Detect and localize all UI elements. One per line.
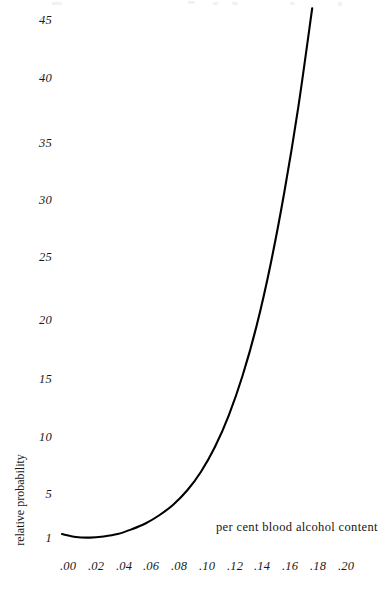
y-tick-label-10: 10 xyxy=(24,431,52,444)
x-axis-title: per cent blood alcohol content xyxy=(216,521,378,534)
y-tick-label-25: 25 xyxy=(24,251,52,264)
y-tick-label-45: 45 xyxy=(24,14,52,27)
y-tick-label-20: 20 xyxy=(24,314,52,327)
y-tick-label-40: 40 xyxy=(24,72,52,85)
y-axis-title: relative probability xyxy=(14,440,26,560)
y-tick-label-30: 30 xyxy=(24,194,52,207)
plot-area xyxy=(0,0,388,593)
y-tick-label-35: 35 xyxy=(24,137,52,150)
x-tick-label-0-20: .20 xyxy=(330,560,362,573)
relative-probability-curve xyxy=(62,8,312,537)
y-tick-label-15: 15 xyxy=(24,373,52,386)
y-tick-label-5: 5 xyxy=(24,488,52,501)
y-tick-label-1: 1 xyxy=(24,532,52,545)
figure-canvas: 45 40 35 30 25 20 15 10 5 1 .00 .02 .04 … xyxy=(0,0,388,593)
